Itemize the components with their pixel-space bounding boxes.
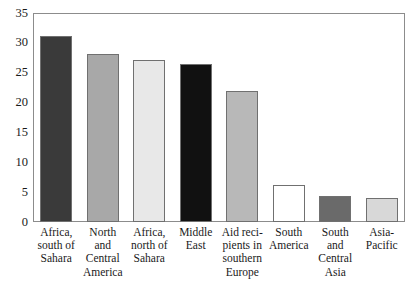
x-axis-category-label: Asia- Pacific — [359, 226, 406, 252]
bar — [366, 198, 398, 222]
x-axis-category-label: North and Central America — [80, 226, 127, 279]
y-axis-tick-label: 30 — [16, 36, 29, 49]
y-axis-tick-label: 25 — [16, 66, 29, 79]
bar — [87, 54, 119, 222]
x-axis-category-label: Middle East — [173, 226, 220, 252]
bar — [133, 60, 165, 222]
x-axis-category-label: Africa, north of Sahara — [126, 226, 173, 266]
x-axis-category-label: South and Central Asia — [312, 226, 359, 279]
y-axis-tick-label: 5 — [22, 186, 28, 199]
bars-layer — [33, 13, 405, 222]
bar — [226, 91, 258, 222]
y-axis-tick-label: 35 — [16, 7, 29, 20]
bar — [273, 185, 305, 222]
y-axis-tick-label: 0 — [22, 216, 28, 229]
y-axis-tick-label: 10 — [16, 156, 29, 169]
bar — [180, 64, 212, 222]
bar — [40, 36, 72, 222]
x-axis-category-label: South America — [266, 226, 313, 252]
x-axis-category-labels: Africa, south of SaharaNorth and Central… — [33, 226, 405, 291]
y-axis-tick-label: 20 — [16, 96, 29, 109]
y-axis-tick-label: 15 — [16, 126, 29, 139]
bar — [319, 196, 351, 222]
x-axis-category-label: Aid reci- pients in southern Europe — [219, 226, 266, 279]
bar-chart: 05101520253035 Africa, south of SaharaNo… — [0, 0, 415, 291]
y-axis: 05101520253035 — [0, 0, 33, 291]
x-axis-category-label: Africa, south of Sahara — [33, 226, 80, 266]
